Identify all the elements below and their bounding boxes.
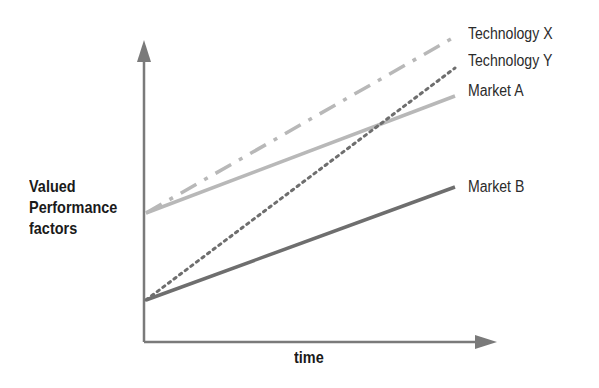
y-axis-label-line2: Performance bbox=[29, 197, 117, 218]
label-technology-y: Technology Y bbox=[468, 52, 552, 70]
label-market-b: Market B bbox=[468, 178, 524, 196]
line-technology-y bbox=[146, 68, 455, 300]
y-axis-label-line1: Valued bbox=[29, 176, 117, 197]
y-axis-label-line3: factors bbox=[29, 218, 117, 239]
line-technology-x bbox=[146, 35, 458, 213]
line-market-a bbox=[146, 96, 455, 213]
x-axis-label: time bbox=[294, 347, 324, 368]
y-axis-arrow-icon bbox=[137, 40, 151, 62]
x-axis-arrow-icon bbox=[475, 335, 497, 349]
line-market-b bbox=[146, 187, 455, 300]
label-market-a: Market A bbox=[468, 82, 524, 100]
label-technology-x: Technology X bbox=[468, 25, 553, 43]
y-axis-label: Valued Performance factors bbox=[29, 176, 117, 239]
